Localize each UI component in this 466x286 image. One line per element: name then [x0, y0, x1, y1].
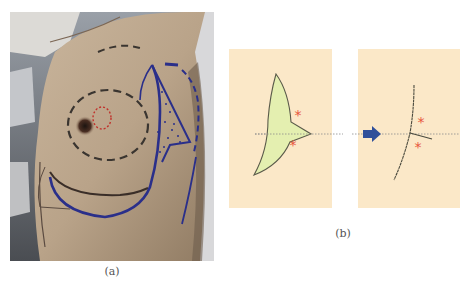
asterisk-left-lower: * — [290, 137, 297, 153]
asterisk-left-upper: * — [295, 107, 302, 123]
right-arrow-icon — [363, 126, 381, 142]
flap-shape — [254, 74, 311, 175]
asterisk-right-lower: * — [415, 139, 422, 155]
schematic-drawing — [0, 0, 466, 286]
caption-b: (b) — [335, 227, 351, 240]
asterisk-right-upper: * — [418, 114, 425, 130]
closure-line — [394, 85, 414, 180]
